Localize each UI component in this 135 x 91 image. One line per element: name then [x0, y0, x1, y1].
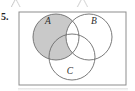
venn-diagram-figure: A B C 5.	[0, 0, 135, 91]
problem-number: 5.	[1, 11, 9, 22]
venn-diagram-canvas: A B C 5.	[0, 0, 135, 91]
circle-label-b: B	[91, 16, 97, 26]
circle-label-c: C	[67, 66, 74, 76]
circle-label-a: A	[44, 16, 51, 26]
